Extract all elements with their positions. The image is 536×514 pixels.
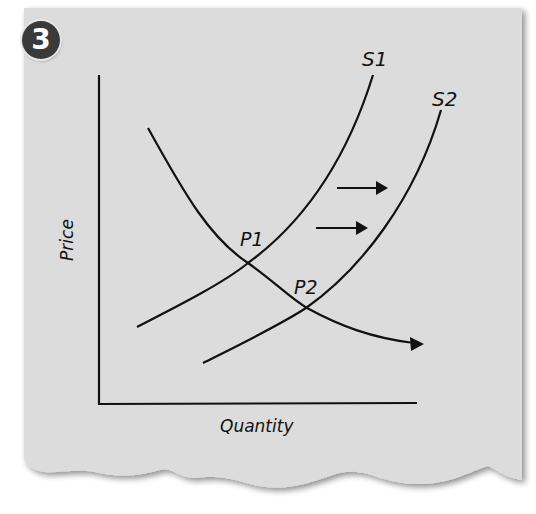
label-s2: S2 <box>432 87 457 111</box>
paper-background <box>0 0 536 514</box>
step-number-badge: 3 <box>22 21 60 59</box>
label-p1: P1 <box>240 228 264 250</box>
x-axis <box>98 403 417 404</box>
y-axis-label: Price <box>57 219 77 261</box>
diagram-card: 3 S1 S2 P1 P2 Price Quantity <box>0 0 536 514</box>
x-axis-label: Quantity <box>220 416 293 436</box>
label-p2: P2 <box>294 276 318 298</box>
label-s1: S1 <box>362 47 387 71</box>
